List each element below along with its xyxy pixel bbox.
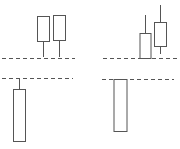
candle-body [14, 90, 26, 142]
candle-body [140, 34, 151, 59]
small-candle-2 [54, 15, 66, 57]
long-candle-below [14, 78, 26, 142]
candle-body [54, 16, 66, 41]
small-candle-2 [155, 5, 167, 54]
long-candle-below [114, 79, 127, 132]
small-candle-1 [38, 16, 50, 57]
left-pattern-panel [2, 15, 75, 142]
candle-body [155, 23, 167, 47]
small-candle-1 [140, 15, 151, 59]
right-pattern-panel [102, 5, 178, 132]
candlestick-pattern-chart [0, 0, 180, 149]
candle-body [38, 17, 50, 42]
candle-body [114, 80, 127, 132]
